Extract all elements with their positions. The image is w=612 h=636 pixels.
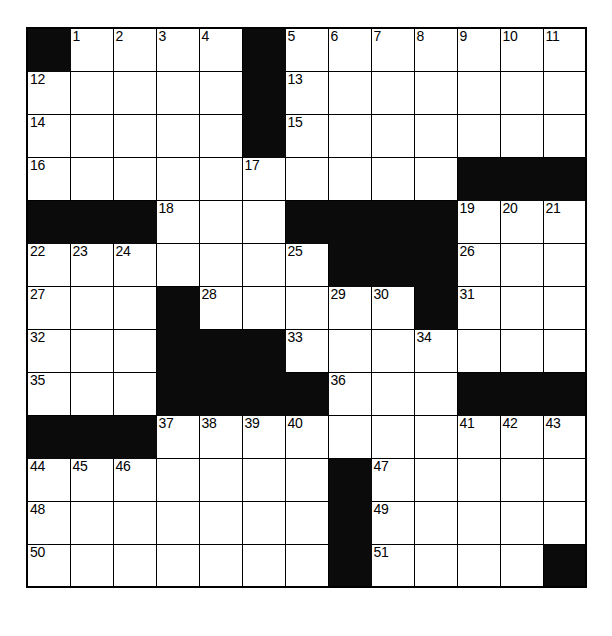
crossword-cell[interactable] bbox=[70, 501, 113, 544]
crossword-cell[interactable] bbox=[543, 286, 586, 329]
crossword-cell[interactable] bbox=[113, 286, 156, 329]
crossword-cell[interactable]: 16 bbox=[27, 157, 70, 200]
crossword-cell[interactable]: 32 bbox=[27, 329, 70, 372]
crossword-cell[interactable] bbox=[414, 458, 457, 501]
crossword-cell[interactable]: 5 bbox=[285, 28, 328, 71]
crossword-cell[interactable] bbox=[156, 71, 199, 114]
crossword-cell[interactable] bbox=[285, 458, 328, 501]
crossword-cell[interactable]: 29 bbox=[328, 286, 371, 329]
crossword-cell[interactable]: 21 bbox=[543, 200, 586, 243]
crossword-cell[interactable]: 49 bbox=[371, 501, 414, 544]
crossword-cell[interactable] bbox=[457, 458, 500, 501]
crossword-cell[interactable] bbox=[199, 71, 242, 114]
crossword-cell[interactable] bbox=[156, 157, 199, 200]
crossword-cell[interactable] bbox=[414, 544, 457, 587]
crossword-cell[interactable] bbox=[242, 243, 285, 286]
crossword-cell[interactable]: 44 bbox=[27, 458, 70, 501]
crossword-cell[interactable] bbox=[414, 114, 457, 157]
crossword-cell[interactable] bbox=[199, 458, 242, 501]
crossword-cell[interactable] bbox=[457, 329, 500, 372]
crossword-cell[interactable]: 41 bbox=[457, 415, 500, 458]
crossword-cell[interactable]: 24 bbox=[113, 243, 156, 286]
crossword-cell[interactable] bbox=[500, 501, 543, 544]
crossword-cell[interactable] bbox=[371, 157, 414, 200]
crossword-cell[interactable]: 11 bbox=[543, 28, 586, 71]
crossword-cell[interactable] bbox=[113, 157, 156, 200]
crossword-cell[interactable] bbox=[543, 458, 586, 501]
crossword-cell[interactable] bbox=[457, 114, 500, 157]
crossword-cell[interactable] bbox=[457, 71, 500, 114]
crossword-cell[interactable] bbox=[113, 544, 156, 587]
crossword-cell[interactable]: 40 bbox=[285, 415, 328, 458]
crossword-cell[interactable] bbox=[285, 286, 328, 329]
crossword-cell[interactable] bbox=[500, 71, 543, 114]
crossword-cell[interactable] bbox=[328, 71, 371, 114]
crossword-cell[interactable] bbox=[543, 329, 586, 372]
crossword-cell[interactable]: 8 bbox=[414, 28, 457, 71]
crossword-cell[interactable]: 10 bbox=[500, 28, 543, 71]
crossword-cell[interactable]: 36 bbox=[328, 372, 371, 415]
crossword-cell[interactable] bbox=[543, 71, 586, 114]
crossword-cell[interactable] bbox=[156, 114, 199, 157]
crossword-cell[interactable]: 25 bbox=[285, 243, 328, 286]
crossword-cell[interactable]: 35 bbox=[27, 372, 70, 415]
crossword-cell[interactable] bbox=[371, 329, 414, 372]
crossword-cell[interactable] bbox=[242, 501, 285, 544]
crossword-cell[interactable] bbox=[70, 329, 113, 372]
crossword-grid[interactable]: 1234567891011121314151617181920212223242… bbox=[26, 27, 587, 588]
crossword-cell[interactable]: 42 bbox=[500, 415, 543, 458]
crossword-cell[interactable]: 37 bbox=[156, 415, 199, 458]
crossword-cell[interactable]: 13 bbox=[285, 71, 328, 114]
crossword-cell[interactable] bbox=[156, 243, 199, 286]
crossword-cell[interactable] bbox=[70, 157, 113, 200]
crossword-cell[interactable]: 46 bbox=[113, 458, 156, 501]
crossword-cell[interactable]: 12 bbox=[27, 71, 70, 114]
crossword-cell[interactable] bbox=[242, 200, 285, 243]
crossword-cell[interactable]: 33 bbox=[285, 329, 328, 372]
crossword-cell[interactable]: 39 bbox=[242, 415, 285, 458]
crossword-cell[interactable] bbox=[156, 458, 199, 501]
crossword-cell[interactable] bbox=[70, 372, 113, 415]
crossword-cell[interactable] bbox=[199, 544, 242, 587]
crossword-cell[interactable] bbox=[328, 157, 371, 200]
crossword-cell[interactable] bbox=[113, 114, 156, 157]
crossword-cell[interactable] bbox=[414, 157, 457, 200]
crossword-cell[interactable] bbox=[543, 243, 586, 286]
crossword-cell[interactable] bbox=[371, 415, 414, 458]
crossword-cell[interactable] bbox=[242, 286, 285, 329]
crossword-cell[interactable] bbox=[70, 71, 113, 114]
crossword-cell[interactable]: 22 bbox=[27, 243, 70, 286]
crossword-cell[interactable] bbox=[328, 114, 371, 157]
crossword-cell[interactable] bbox=[285, 157, 328, 200]
crossword-cell[interactable]: 3 bbox=[156, 28, 199, 71]
crossword-cell[interactable]: 48 bbox=[27, 501, 70, 544]
crossword-cell[interactable] bbox=[199, 243, 242, 286]
crossword-cell[interactable]: 7 bbox=[371, 28, 414, 71]
crossword-cell[interactable] bbox=[371, 114, 414, 157]
crossword-cell[interactable] bbox=[543, 114, 586, 157]
crossword-cell[interactable]: 34 bbox=[414, 329, 457, 372]
crossword-cell[interactable]: 4 bbox=[199, 28, 242, 71]
crossword-cell[interactable] bbox=[371, 372, 414, 415]
crossword-cell[interactable] bbox=[500, 243, 543, 286]
crossword-cell[interactable] bbox=[113, 71, 156, 114]
crossword-cell[interactable] bbox=[113, 501, 156, 544]
crossword-cell[interactable] bbox=[113, 372, 156, 415]
crossword-cell[interactable] bbox=[242, 458, 285, 501]
crossword-cell[interactable]: 19 bbox=[457, 200, 500, 243]
crossword-cell[interactable]: 15 bbox=[285, 114, 328, 157]
crossword-cell[interactable] bbox=[414, 415, 457, 458]
crossword-cell[interactable]: 30 bbox=[371, 286, 414, 329]
crossword-cell[interactable] bbox=[500, 544, 543, 587]
crossword-cell[interactable] bbox=[457, 544, 500, 587]
crossword-cell[interactable] bbox=[199, 157, 242, 200]
crossword-cell[interactable] bbox=[70, 544, 113, 587]
crossword-cell[interactable] bbox=[500, 286, 543, 329]
crossword-cell[interactable] bbox=[543, 501, 586, 544]
crossword-cell[interactable]: 26 bbox=[457, 243, 500, 286]
crossword-cell[interactable] bbox=[70, 286, 113, 329]
crossword-cell[interactable] bbox=[457, 501, 500, 544]
crossword-cell[interactable]: 31 bbox=[457, 286, 500, 329]
crossword-cell[interactable]: 47 bbox=[371, 458, 414, 501]
crossword-cell[interactable] bbox=[414, 372, 457, 415]
